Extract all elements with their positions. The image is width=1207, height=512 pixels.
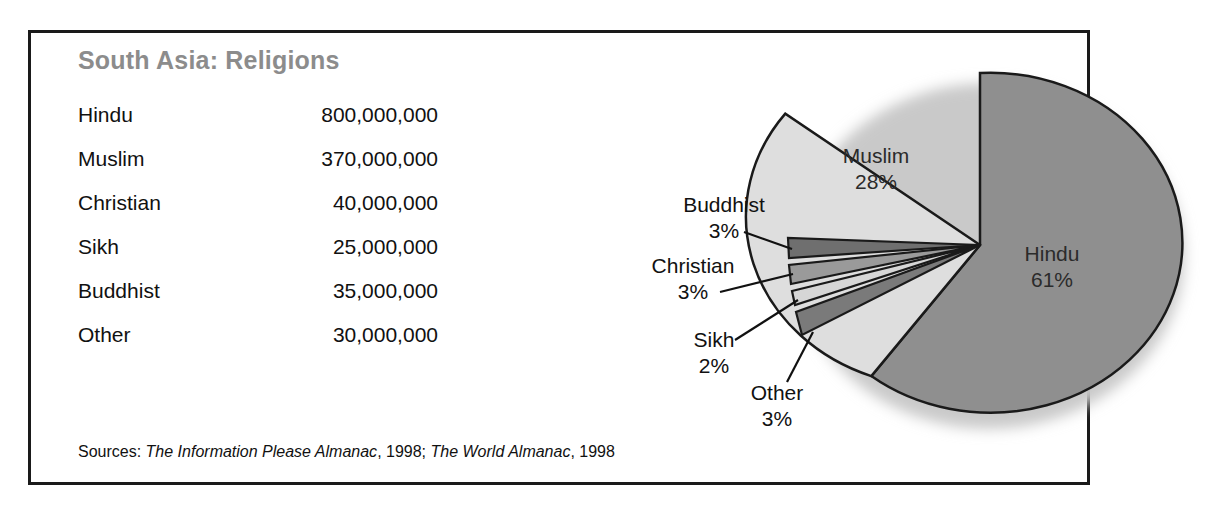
leader-line-other — [787, 332, 813, 382]
slice-label-muslim-name: Muslim — [843, 144, 910, 167]
table-row: Christian 40,000,000 — [78, 191, 438, 235]
callout-label-buddhist-name: Buddhist — [683, 193, 765, 216]
row-label-muslim: Muslim — [78, 147, 145, 171]
table-row: Muslim 370,000,000 — [78, 147, 438, 191]
religions-figure: South Asia: Religions Hindu 800,000,000 … — [0, 0, 1207, 512]
religion-data-table: Hindu 800,000,000 Muslim 370,000,000 Chr… — [78, 103, 438, 367]
callout-label-other-name: Other — [751, 381, 804, 404]
slice-label-hindu-percent: 61% — [1031, 268, 1073, 291]
callout-label-christian-percent: 3% — [678, 280, 708, 303]
page-title: South Asia: Religions — [78, 46, 340, 75]
table-row: Buddhist 35,000,000 — [78, 279, 438, 323]
row-value-christian: 40,000,000 — [333, 191, 438, 215]
sources-note: Sources: The Information Please Almanac,… — [78, 443, 615, 461]
table-row: Other 30,000,000 — [78, 323, 438, 367]
slice-label-hindu-name: Hindu — [1025, 242, 1080, 265]
row-label-christian: Christian — [78, 191, 161, 215]
row-label-buddhist: Buddhist — [78, 279, 160, 303]
sources-work-2: The World Almanac — [431, 443, 571, 460]
sources-year-1: , 1998; — [377, 443, 430, 460]
row-value-sikh: 25,000,000 — [333, 235, 438, 259]
row-value-buddhist: 35,000,000 — [333, 279, 438, 303]
callout-label-buddhist-percent: 3% — [709, 219, 739, 242]
row-label-hindu: Hindu — [78, 103, 133, 127]
callout-label-sikh-name: Sikh — [694, 328, 735, 351]
row-label-other: Other — [78, 323, 131, 347]
row-value-hindu: 800,000,000 — [321, 103, 438, 127]
row-value-muslim: 370,000,000 — [321, 147, 438, 171]
slice-label-muslim-percent: 28% — [855, 170, 897, 193]
callout-label-christian-name: Christian — [652, 254, 735, 277]
table-row: Sikh 25,000,000 — [78, 235, 438, 279]
callout-label-sikh-percent: 2% — [699, 354, 729, 377]
pie-svg: Muslim 28% Hindu 61% Buddhist 3% Christi… — [580, 60, 1207, 460]
table-row: Hindu 800,000,000 — [78, 103, 438, 147]
pie-chart: Muslim 28% Hindu 61% Buddhist 3% Christi… — [580, 60, 1207, 460]
row-value-other: 30,000,000 — [333, 323, 438, 347]
row-label-sikh: Sikh — [78, 235, 119, 259]
callout-label-other-percent: 3% — [762, 407, 792, 430]
sources-work-1: The Information Please Almanac — [146, 443, 378, 460]
sources-prefix: Sources: — [78, 443, 146, 460]
